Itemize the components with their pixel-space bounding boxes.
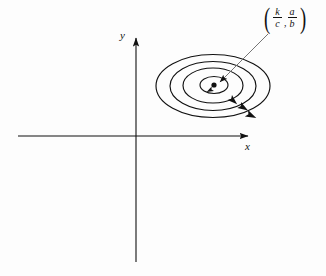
- coordinate-k-over-c: k c: [273, 7, 282, 29]
- open-paren: (: [264, 6, 270, 29]
- y-axis-label: y: [119, 29, 125, 41]
- numerator-a: a: [288, 7, 297, 17]
- denominator-c: c: [273, 19, 281, 29]
- coordinate-separator: ,: [284, 18, 287, 29]
- phase-portrait-figure: x y ( k c , a: [0, 0, 326, 276]
- denominator-b: b: [288, 19, 297, 29]
- equilibrium-point-label: ( k c , a b ): [262, 6, 308, 29]
- equilibrium-point-dot: [211, 82, 216, 87]
- close-paren: ): [299, 6, 305, 29]
- diagram-canvas: x y: [0, 0, 326, 276]
- flow-arrow-2: [227, 95, 239, 107]
- x-axis-label: x: [244, 140, 250, 152]
- axes-group: x y: [18, 29, 250, 262]
- numerator-k: k: [273, 7, 281, 17]
- coordinate-a-over-b: a b: [288, 7, 297, 29]
- leader-line: [220, 34, 268, 82]
